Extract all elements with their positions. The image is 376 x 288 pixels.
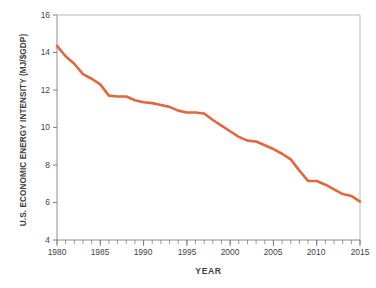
energy-intensity-chart: U.S. ECONOMIC ENERGY INTENSITY (MJ/$GDP)… — [0, 0, 376, 288]
plot-area — [0, 0, 376, 288]
data-series-line — [57, 46, 360, 202]
axis-frame — [57, 15, 360, 240]
x-axis-major-ticks — [57, 240, 360, 246]
y-axis-ticks — [53, 15, 57, 240]
x-axis-minor-ticks — [57, 240, 360, 244]
